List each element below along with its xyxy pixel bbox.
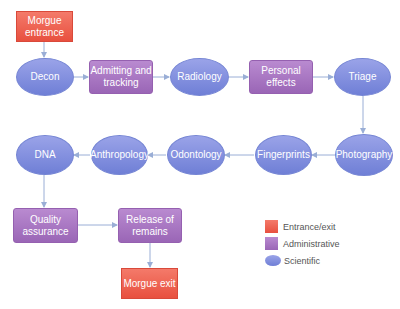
release-label: Release of remains	[119, 214, 181, 238]
admitting-label: Admitting and tracking	[90, 65, 152, 89]
legend-item-entrance-exit: Entrance/exit	[265, 218, 340, 235]
anthropology-node: Anthropology	[91, 135, 148, 175]
triage-label: Triage	[349, 71, 377, 83]
anthropology-label: Anthropology	[90, 149, 149, 161]
admitting-node: Admitting and tracking	[89, 60, 153, 94]
release-node: Release of remains	[118, 208, 182, 243]
legend-item-administrative: Administrative	[265, 235, 340, 252]
legend-item-scientific: Scientific	[265, 252, 340, 269]
dna-label: DNA	[34, 149, 55, 161]
quality-assurance-node: Quality assurance	[13, 208, 78, 243]
personal-effects-node: Personal effects	[249, 60, 313, 94]
legend: Entrance/exit Administrative Scientific	[265, 218, 340, 269]
dna-node: DNA	[16, 135, 74, 175]
triage-node: Triage	[334, 58, 391, 96]
decon-label: Decon	[31, 71, 60, 83]
quality-assurance-label: Quality assurance	[14, 214, 77, 238]
morgue-entrance-node: Morgue entrance	[16, 11, 73, 42]
morgue-exit-label: Morgue exit	[123, 278, 175, 290]
fingerprints-label: Fingerprints	[257, 149, 310, 161]
photography-node: Photography	[335, 134, 393, 176]
radiology-node: Radiology	[170, 58, 229, 96]
legend-label: Entrance/exit	[283, 222, 336, 232]
legend-label: Scientific	[284, 256, 320, 266]
administrative-swatch-icon	[265, 237, 278, 250]
odontology-node: Odontology	[167, 135, 225, 175]
personal-effects-label: Personal effects	[250, 65, 312, 89]
odontology-label: Odontology	[170, 149, 221, 161]
scientific-swatch-icon	[265, 255, 281, 266]
decon-node: Decon	[16, 58, 74, 96]
entrance-exit-swatch-icon	[265, 220, 278, 233]
morgue-exit-node: Morgue exit	[121, 268, 178, 299]
morgue-entrance-label: Morgue entrance	[17, 15, 72, 39]
photography-label: Photography	[336, 149, 393, 161]
radiology-label: Radiology	[177, 71, 221, 83]
fingerprints-node: Fingerprints	[255, 135, 312, 175]
legend-label: Administrative	[283, 239, 340, 249]
